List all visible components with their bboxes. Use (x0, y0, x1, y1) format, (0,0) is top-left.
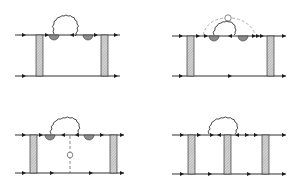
arrow-icon (282, 34, 286, 38)
arrow-icon (120, 171, 124, 175)
diagram-bottom-right (172, 117, 286, 176)
vertex-blob-left (49, 35, 59, 40)
diagram-bottom-left (15, 117, 124, 175)
photon-wavy-loop (208, 117, 238, 134)
arrow-icon (217, 133, 221, 137)
diagram-top-left (15, 15, 120, 78)
arrow-icon (282, 74, 286, 78)
arrow-icon (256, 34, 260, 38)
arrow-icon (208, 172, 212, 176)
insertion-circle (225, 15, 231, 21)
arrow-icon (197, 133, 201, 137)
arrow-icon (61, 133, 65, 137)
arrow-icon (245, 133, 249, 137)
arrow-icon (282, 172, 286, 176)
vertex-blob-left (45, 135, 55, 140)
interaction-box-left (36, 35, 43, 76)
interaction-box-middle (224, 135, 231, 174)
interaction-box-right (262, 135, 269, 174)
arrow-icon (180, 133, 184, 137)
arrow-icon (100, 133, 104, 137)
arrow-icon (210, 133, 214, 137)
arrow-icon (252, 34, 256, 38)
arrow-icon (254, 133, 258, 137)
arrow-icon (89, 171, 93, 175)
arrow-icon (22, 171, 26, 175)
arrow-icon (94, 33, 98, 37)
interaction-box-left (188, 135, 195, 174)
arrow-icon (50, 171, 54, 175)
arrow-icon (247, 172, 251, 176)
arrow-icon (39, 133, 43, 137)
feynman-diagrams-figure (0, 0, 300, 184)
arrow-icon (260, 34, 264, 38)
arrow-icon (228, 74, 232, 78)
arrow-icon (179, 34, 183, 38)
interaction-box-right (110, 135, 117, 173)
interaction-box-right (267, 36, 274, 76)
arrow-icon (22, 33, 26, 37)
arrow-icon (282, 133, 286, 137)
arrow-icon (228, 34, 232, 38)
arrow-icon (196, 34, 200, 38)
interaction-box-right (101, 35, 108, 76)
photon-wavy-loop (50, 117, 80, 134)
vertex-blob-right (84, 135, 94, 140)
arrow-icon (22, 133, 26, 137)
arrow-icon (114, 33, 118, 37)
arrow-icon (45, 33, 49, 37)
vertex-blob-right (238, 36, 248, 41)
photon-wavy-loop (53, 15, 79, 36)
interaction-box-left (30, 135, 37, 173)
arrow-icon (70, 33, 74, 37)
arrow-icon (22, 74, 26, 78)
arrow-icon (180, 172, 184, 176)
diagram-top-right (172, 15, 286, 78)
interaction-box-left (187, 36, 194, 76)
insertion-circle (67, 152, 73, 158)
arrow-icon (179, 74, 183, 78)
arrow-icon (114, 74, 118, 78)
vertex-blob-right (83, 35, 93, 40)
photon-wavy-loop (213, 21, 236, 35)
vertex-blob-left (209, 36, 219, 41)
arrow-icon (204, 34, 208, 38)
arrow-icon (120, 133, 124, 137)
